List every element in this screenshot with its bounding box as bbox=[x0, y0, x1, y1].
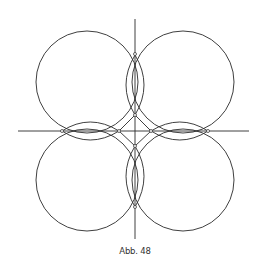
point bbox=[134, 114, 137, 117]
point bbox=[118, 130, 121, 133]
point bbox=[134, 206, 137, 209]
circle-top-right bbox=[132, 31, 234, 133]
figure-caption: Abb. 48 bbox=[0, 246, 261, 256]
point bbox=[61, 130, 64, 133]
point bbox=[134, 53, 137, 56]
figure-diagram bbox=[0, 0, 261, 270]
circle-top-left bbox=[36, 31, 138, 133]
circle-bottom-right bbox=[132, 129, 234, 231]
point bbox=[207, 130, 210, 133]
point bbox=[134, 145, 137, 148]
point bbox=[150, 130, 153, 133]
circle-bottom-left bbox=[36, 129, 138, 231]
